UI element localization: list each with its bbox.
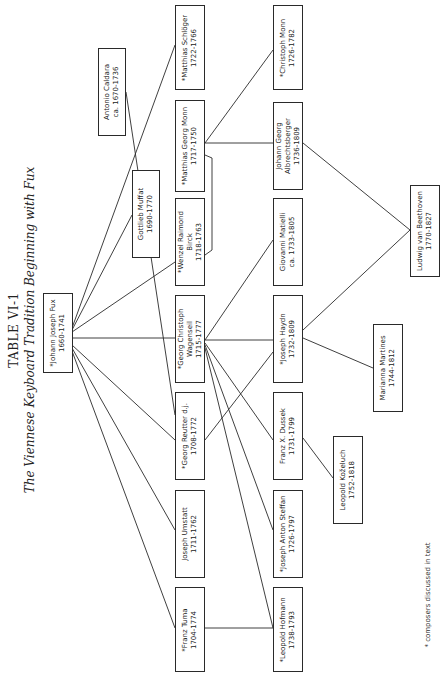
- node-dates: 1726-1782: [288, 18, 297, 77]
- node-dates: 1752-1818: [348, 450, 357, 511]
- node-name: Ludwig van Beethoven: [416, 191, 425, 271]
- node-name: Gottlieb Muffat: [137, 188, 146, 240]
- node-dates: 1738-1793: [288, 597, 297, 662]
- node-matielli: Giovanni Matiellica. 1733-1805: [273, 198, 303, 286]
- line-fux-umstatt: [72, 348, 175, 530]
- node-haydn: *Joseph Haydn1732-1809: [273, 295, 303, 383]
- node-name: *Johann Joseph Fux: [49, 299, 58, 366]
- line-fux-birck: [72, 262, 175, 332]
- line-mgmonn-birck: [205, 155, 212, 255]
- node-dates: 1731-1799: [288, 408, 297, 464]
- node-name: Giovanni Matielli: [279, 213, 288, 271]
- node-name: *Matthias Schlöger: [181, 14, 190, 80]
- node-albrechtsberger: Johann GeorgAlbrechtsberger1736-1809: [273, 102, 303, 190]
- node-name-2: Albrechtsberger: [284, 118, 293, 174]
- node-name: *Matthias Georg Monn: [181, 107, 190, 186]
- node-name: *Leopold Hofmann: [279, 597, 288, 662]
- table-subtitle: The Viennese Keyboard Tradition Beginnin…: [23, 167, 37, 494]
- node-stefan: *Joseph Anton Steffan1726-1797: [273, 490, 303, 578]
- node-dates: 1770-1827: [425, 191, 434, 271]
- node-schloger: *Matthias Schlöger1722-1766: [175, 5, 205, 90]
- line-reutter-haydn: [205, 352, 273, 440]
- node-dates: 1704-1774: [190, 608, 199, 651]
- node-dates: 1726-1797: [288, 496, 297, 573]
- node-dates: 1722-1766: [190, 14, 199, 80]
- node-dates: 1718-1763: [195, 211, 204, 273]
- node-name: *Joseph Anton Steffan: [279, 496, 288, 573]
- line-mgmonn-cmonn: [205, 50, 273, 143]
- node-name: *Georg Reutter d.j.: [181, 403, 190, 469]
- node-dates: 1660-1741: [58, 299, 67, 366]
- node-mgmonn: *Matthias Georg Monn1717-1750: [175, 100, 205, 192]
- node-dates: 1717-1750: [190, 107, 199, 186]
- node-name: Johann Georg: [275, 118, 284, 174]
- line-fux-muffat: [72, 215, 132, 330]
- node-name: Franz X. Dussek: [279, 408, 288, 464]
- node-cmonn: *Christoph Monn1726-1782: [273, 5, 303, 90]
- node-name: Antonio Caldara: [103, 64, 112, 120]
- table-title: TABLE VI-1: [7, 292, 21, 367]
- node-name: Joseph Umstatt: [181, 507, 190, 561]
- node-name: *Christoph Monn: [279, 18, 288, 77]
- node-dates: ca. 1733-1805: [288, 213, 297, 271]
- node-dates: 1690-1770: [146, 188, 155, 240]
- node-martines: Marianna Martines1744-1812: [373, 324, 403, 412]
- node-dates: 1711-1762: [190, 507, 199, 561]
- line-haydn-martines: [303, 338, 373, 368]
- node-kozeluch: Leopold Koželuch1752-1818: [333, 436, 363, 524]
- node-dates: 1736-1809: [293, 118, 302, 174]
- node-beethoven: Ludwig van Beethoven1770-1827: [410, 185, 440, 277]
- node-name-2: Wagenseil: [186, 309, 195, 370]
- node-name: *Wenzel Raimond: [177, 211, 186, 273]
- node-dates: 1732-1809: [288, 313, 297, 364]
- node-dates: ca. 1670-1736: [112, 64, 121, 120]
- line-wagenseil-hofmann: [205, 348, 273, 628]
- node-dates: 1715-1777: [195, 309, 204, 370]
- line-wagenseil-stefan: [205, 345, 273, 530]
- node-fux: *Johann Joseph Fux1660-1741: [43, 293, 73, 373]
- node-name: Leopold Koželuch: [339, 450, 348, 511]
- node-name: Marianna Martines: [379, 335, 388, 400]
- node-birck: *Wenzel RaimondBirck1718-1763: [175, 198, 205, 286]
- node-name: *Franz Tuma: [181, 608, 190, 651]
- node-dussek: Franz X. Dussek1731-1799: [273, 392, 303, 480]
- node-reutter: *Georg Reutter d.j.1708-1772: [175, 392, 205, 480]
- footnote: * composers discussed in text: [424, 542, 432, 647]
- node-umstatt: Joseph Umstatt1711-1762: [175, 490, 205, 578]
- node-caldara: Antonio Caldaraca. 1670-1736: [98, 48, 126, 136]
- node-name: *Georg Christoph: [177, 309, 186, 370]
- node-tuma: *Franz Tuma1704-1774: [175, 587, 205, 672]
- node-muffat: Gottlieb Muffat1690-1770: [132, 170, 160, 258]
- node-name-2: Birck: [186, 211, 195, 273]
- node-name: *Joseph Haydn: [279, 313, 288, 364]
- node-dates: 1708-1772: [190, 403, 199, 469]
- line-wagenseil-matielli: [205, 240, 273, 340]
- node-hofmann: *Leopold Hofmann1738-1793: [273, 587, 303, 672]
- line-haydn-beethoven: [303, 230, 410, 330]
- line-albrechtsberger-beethoven: [303, 143, 410, 230]
- line-dussek-kozeluch: [303, 438, 333, 478]
- node-dates: 1744-1812: [388, 335, 397, 400]
- node-wagenseil: *Georg ChristophWagenseil1715-1777: [175, 295, 205, 383]
